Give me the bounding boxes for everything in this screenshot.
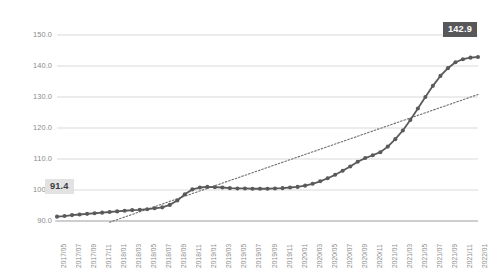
x-axis-tick-2021-07: 2021/07 xyxy=(436,244,443,268)
y-axis-tick-140-0: 140.0 xyxy=(18,61,52,70)
x-axis-tick-2017-05: 2017/05 xyxy=(60,244,67,268)
x-axis-tick-2020-01: 2020/01 xyxy=(301,244,308,268)
x-axis-tick-2018-03: 2018/03 xyxy=(135,244,142,268)
x-axis-tick-2020-09: 2020/09 xyxy=(361,244,368,268)
x-axis-tick-2019-07: 2019/07 xyxy=(255,244,262,268)
x-axis-tick-2020-11: 2020/11 xyxy=(376,244,383,268)
y-axis-tick-110-0: 110.0 xyxy=(18,154,52,163)
x-axis-tick-2017-11: 2017/11 xyxy=(105,244,112,268)
x-axis-tick-2019-01: 2019/01 xyxy=(210,244,217,268)
x-axis-tick-2019-05: 2019/05 xyxy=(240,244,247,268)
x-axis-tick-2022-01: 2022/01 xyxy=(481,244,488,268)
chart-plot-area xyxy=(0,0,498,278)
x-axis-tick-2018-11: 2018/11 xyxy=(195,244,202,268)
x-axis-tick-2020-03: 2020/03 xyxy=(316,244,323,268)
x-axis-tick-2018-01: 2018/01 xyxy=(120,244,127,268)
x-axis-tick-2019-11: 2019/11 xyxy=(286,244,293,268)
x-axis-tick-2021-05: 2021/05 xyxy=(421,244,428,268)
x-axis-tick-2021-11: 2021/11 xyxy=(466,244,473,268)
y-axis-tick-90-0: 90.0 xyxy=(18,216,52,225)
x-axis-tick-2017-07: 2017/07 xyxy=(75,244,82,268)
x-axis-tick-2018-09: 2018/09 xyxy=(180,244,187,268)
x-axis-tick-2020-05: 2020/05 xyxy=(331,244,338,268)
x-axis-tick-2018-05: 2018/05 xyxy=(150,244,157,268)
x-axis-tick-2019-09: 2019/09 xyxy=(271,244,278,268)
x-axis-tick-2017-09: 2017/09 xyxy=(90,244,97,268)
index-series-markers xyxy=(55,55,480,219)
x-axis-tick-2018-07: 2018/07 xyxy=(165,244,172,268)
x-axis-tick-2019-03: 2019/03 xyxy=(225,244,232,268)
x-axis-tick-2021-01: 2021/01 xyxy=(391,244,398,268)
x-axis-tick-2020-07: 2020/07 xyxy=(346,244,353,268)
chart-container: 150.0140.0130.0120.0110.0100.090.0 2017/… xyxy=(0,0,498,278)
gridlines xyxy=(57,35,478,221)
y-axis-tick-130-0: 130.0 xyxy=(18,92,52,101)
trendline-series xyxy=(110,95,478,223)
y-axis-tick-120-0: 120.0 xyxy=(18,123,52,132)
start-value-label: 91.4 xyxy=(45,179,74,194)
x-axis-tick-2021-03: 2021/03 xyxy=(406,244,413,268)
y-axis-tick-150-0: 150.0 xyxy=(18,30,52,39)
index-series-line xyxy=(57,57,478,217)
end-value-label: 142.9 xyxy=(443,22,477,37)
x-axis-tick-2021-09: 2021/09 xyxy=(451,244,458,268)
